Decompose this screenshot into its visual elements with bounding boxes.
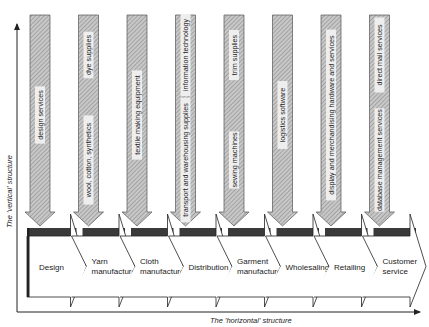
vertical-axis-label: The 'vertical' structure [5, 155, 14, 228]
input-label: direct mail services [375, 24, 384, 86]
stage-label: Cloth [140, 257, 159, 266]
input-arrow: sewing machinestrim supplies [219, 15, 249, 226]
stage-label: Yarn [92, 257, 108, 266]
input-label: transport and warehousing supplies [181, 103, 190, 217]
input-label: sewing machines [230, 132, 239, 188]
input-arrow: logistics software [268, 15, 298, 226]
stage-label: Design [39, 263, 64, 272]
input-arrow: design services [25, 15, 55, 226]
stage-label: service [383, 267, 409, 276]
stage-label: Retailing [334, 263, 365, 272]
input-arrow: transport and warehousing suppliesinform… [171, 14, 201, 226]
input-label: dye supplies [84, 35, 93, 75]
input-arrow: wool, cotton, syntheticsdye supplies [74, 15, 104, 226]
vertical-input-arrows: design serviceswool, cotton, syntheticsd… [25, 14, 395, 226]
stage-label: Customer [383, 257, 418, 266]
input-label: textile making equipment [133, 75, 142, 155]
value-chain-diagram: The 'vertical' structure The 'horizontal… [0, 0, 429, 327]
stage-label: Distribution [189, 263, 229, 272]
input-label: information technology [181, 18, 190, 91]
input-label: design services [36, 90, 45, 140]
horizontal-axis-label: The 'horizontal' structure [210, 316, 292, 325]
stage-label: manufacture [140, 267, 185, 276]
input-label: logistics software [278, 88, 287, 143]
input-arrow: textile making equipment [122, 15, 152, 226]
stage-label: Garment [237, 257, 269, 266]
input-arrow: database management servicesdirect mail … [365, 15, 395, 226]
input-label: wool, cotton, synthetics [84, 122, 93, 198]
input-label: database management services [375, 109, 384, 211]
stage-label: manufacture [92, 267, 137, 276]
input-label: trim supplies [230, 34, 239, 75]
stage-label: manufacture [237, 267, 282, 276]
horizontal-value-chain: DesignYarnmanufactureClothmanufactureDis… [27, 214, 426, 307]
input-label: display and merchandising hardware and s… [327, 35, 336, 195]
input-arrow: display and merchandising hardware and s… [316, 15, 346, 226]
stage-label: Wholesaling [286, 263, 330, 272]
